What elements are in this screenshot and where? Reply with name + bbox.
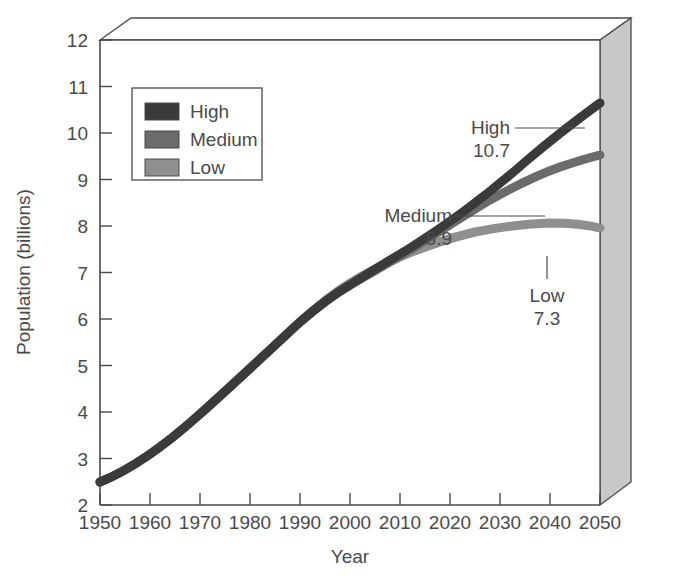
x-axis-tick-labels: 1950 1960 1970 1980 1990 2000 2010 2020 …: [79, 512, 621, 533]
legend-swatch-high: [145, 103, 179, 120]
population-projection-chart: 12 11 10 9 8 7 6 5 4 3 2: [0, 0, 683, 585]
frame-right-wall: [600, 18, 631, 505]
x-axis-title: Year: [331, 546, 370, 567]
y-tick-label: 3: [77, 449, 88, 470]
x-tick-label: 1990: [279, 512, 321, 533]
y-axis-title: Population (billions): [13, 189, 34, 355]
annotation-value-medium: 8.9: [426, 228, 452, 249]
legend-label-high: High: [190, 101, 229, 122]
chart-svg: 12 11 10 9 8 7 6 5 4 3 2: [0, 0, 683, 585]
x-tick-label: 1980: [229, 512, 271, 533]
y-axis-tick-labels: 12 11 10 9 8 7 6 5 4 3 2: [67, 30, 89, 516]
legend-label-medium: Medium: [190, 129, 258, 150]
legend-swatch-medium: [145, 131, 179, 148]
y-tick-label: 5: [77, 356, 88, 377]
annotation-label-high: High: [471, 117, 510, 138]
y-tick-label: 4: [77, 402, 88, 423]
x-tick-label: 1960: [129, 512, 171, 533]
y-tick-label: 12: [67, 30, 88, 51]
legend-item-medium[interactable]: Medium: [145, 129, 258, 150]
x-tick-label: 1950: [79, 512, 121, 533]
x-tick-label: 2050: [579, 512, 621, 533]
x-tick-label: 2010: [379, 512, 421, 533]
legend-swatch-low: [145, 159, 179, 176]
annotation-value-high: 10.7: [473, 140, 510, 161]
y-tick-label: 10: [67, 123, 88, 144]
y-tick-label: 7: [77, 263, 88, 284]
y-tick-label: 6: [77, 309, 88, 330]
y-tick-label: 9: [77, 170, 88, 191]
annotation-label-medium: Medium: [384, 205, 452, 226]
x-tick-label: 2030: [479, 512, 521, 533]
y-tick-label: 11: [68, 77, 88, 98]
x-tick-label: 1970: [179, 512, 221, 533]
annotation-label-low: Low: [530, 285, 565, 306]
annotation-value-low: 7.3: [534, 308, 560, 329]
x-tick-label: 2020: [429, 512, 471, 533]
x-tick-label: 2040: [529, 512, 571, 533]
legend-label-low: Low: [190, 157, 225, 178]
legend: High Medium Low: [132, 88, 262, 180]
frame-top-face: [100, 18, 631, 40]
x-tick-label: 2000: [329, 512, 371, 533]
y-tick-label: 8: [77, 216, 88, 237]
